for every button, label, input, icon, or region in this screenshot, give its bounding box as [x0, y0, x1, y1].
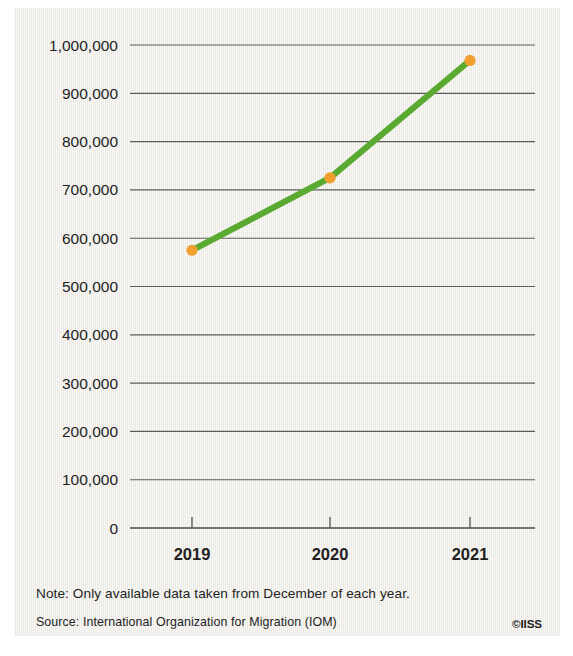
y-axis-tick-label: 800,000 — [62, 133, 118, 150]
y-axis-tick-label: 600,000 — [62, 230, 118, 247]
copyright-credit: ©IISS — [512, 617, 542, 630]
x-axis-tick-labels: 201920202021 — [174, 545, 489, 563]
data-point-markers — [186, 55, 475, 256]
y-axis-tick-label: 700,000 — [62, 181, 118, 198]
chart-note: Note: Only available data taken from Dec… — [36, 586, 410, 601]
x-axis-tick-label: 2019 — [174, 545, 211, 563]
line-chart-plot: 0100,000200,000300,000400,000500,000600,… — [14, 8, 560, 636]
x-axis-tick-label: 2021 — [452, 545, 489, 563]
y-axis-tick-label: 1,000,000 — [49, 37, 118, 54]
chart-source: Source: International Organization for M… — [36, 615, 337, 629]
y-axis-tick-label: 400,000 — [62, 326, 118, 343]
data-line-series-migrants — [192, 60, 470, 250]
data-point-marker — [186, 245, 197, 256]
y-axis-tick-label: 900,000 — [62, 85, 118, 102]
gridlines-group — [130, 45, 535, 528]
x-axis-tick-label: 2020 — [312, 545, 349, 563]
y-axis-tick-label: 200,000 — [62, 423, 118, 440]
x-axis-tickmarks — [192, 517, 470, 528]
chart-figure: 0100,000200,000300,000400,000500,000600,… — [14, 8, 560, 636]
y-axis-tick-label: 100,000 — [62, 471, 118, 488]
data-point-marker — [464, 55, 475, 66]
y-axis-tick-label: 300,000 — [62, 375, 118, 392]
y-axis-tick-label: 0 — [109, 520, 118, 537]
y-axis-tick-label: 500,000 — [62, 278, 118, 295]
y-axis-tick-labels: 0100,000200,000300,000400,000500,000600,… — [49, 37, 118, 537]
data-point-marker — [324, 172, 335, 183]
